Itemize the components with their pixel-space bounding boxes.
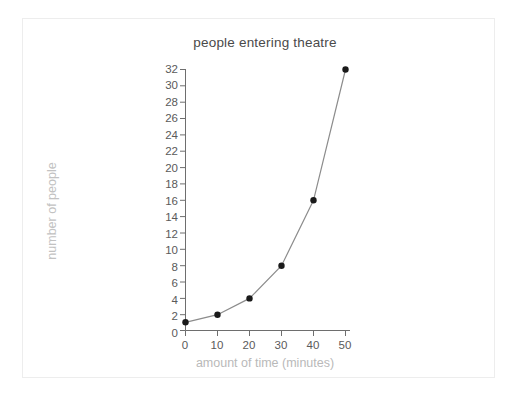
series-line [186, 70, 346, 323]
data-point-marker [278, 263, 284, 269]
data-point-marker [246, 295, 252, 301]
data-point-marker [342, 66, 348, 72]
data-point-marker [214, 312, 220, 318]
series-markers [182, 66, 348, 325]
chart-plot-region: people entering theatre number of people… [0, 0, 517, 401]
data-point-marker [182, 319, 188, 325]
x-axis-ticks [186, 331, 346, 337]
data-point-marker [310, 197, 316, 203]
plot-svg [0, 0, 517, 401]
chart-screenshot: people entering theatre number of people… [0, 0, 517, 401]
y-axis-ticks [180, 70, 186, 331]
